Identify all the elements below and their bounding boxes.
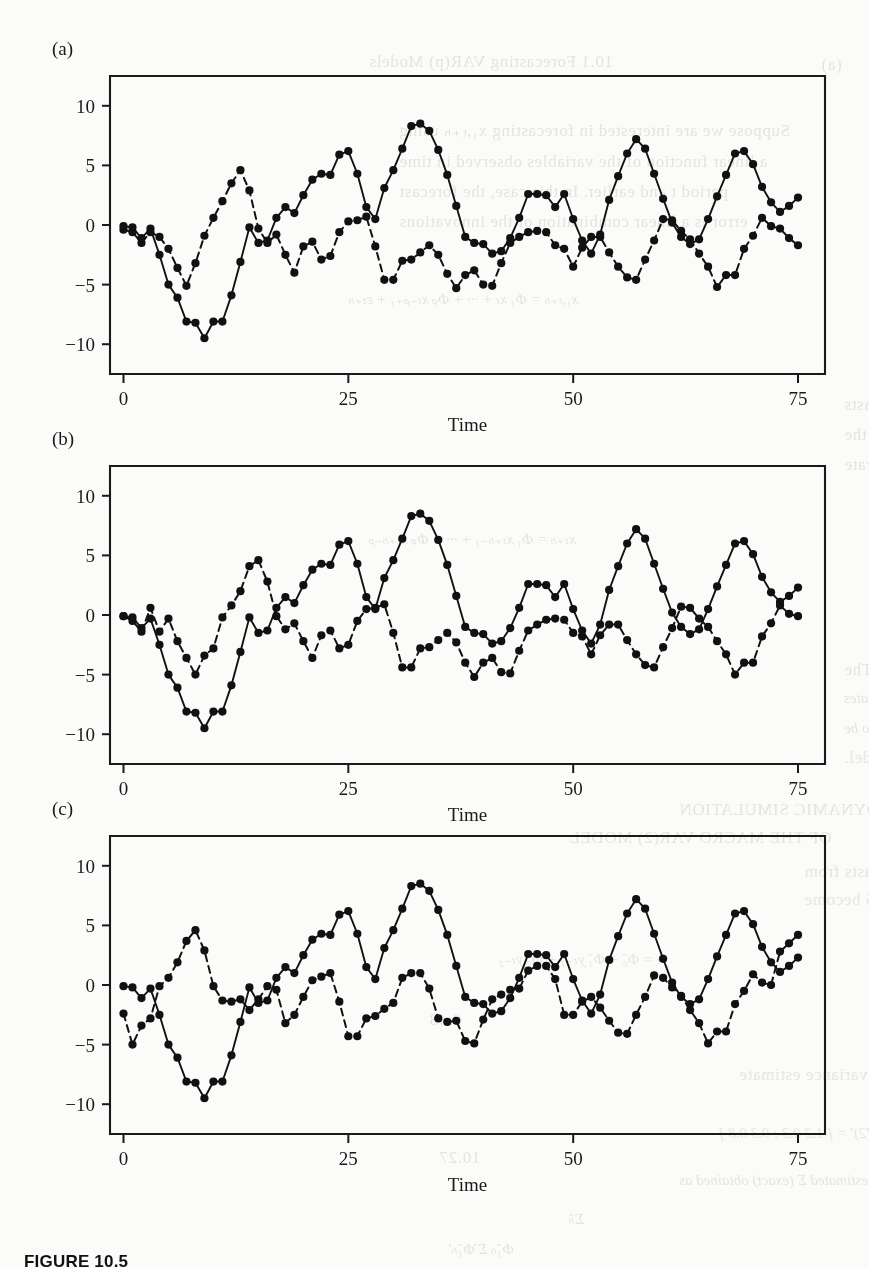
data-point bbox=[137, 1021, 145, 1029]
data-point bbox=[353, 930, 361, 938]
data-point bbox=[461, 1037, 469, 1045]
series-line-forecast-lag3 bbox=[123, 930, 798, 1044]
data-point bbox=[614, 1029, 622, 1037]
data-point bbox=[488, 1010, 496, 1018]
data-point bbox=[497, 990, 505, 998]
data-point bbox=[614, 932, 622, 940]
data-point bbox=[794, 953, 802, 961]
data-point bbox=[623, 909, 631, 917]
data-point bbox=[578, 996, 586, 1004]
data-point bbox=[434, 1014, 442, 1022]
data-point bbox=[731, 1000, 739, 1008]
data-point bbox=[749, 970, 757, 978]
data-point bbox=[317, 930, 325, 938]
data-point bbox=[416, 880, 424, 888]
data-point bbox=[398, 974, 406, 982]
data-point bbox=[650, 930, 658, 938]
data-point bbox=[722, 1027, 730, 1035]
data-point bbox=[128, 983, 136, 991]
data-point bbox=[641, 993, 649, 1001]
data-point bbox=[515, 974, 523, 982]
data-point bbox=[218, 996, 226, 1004]
data-point bbox=[596, 1004, 604, 1012]
data-point bbox=[641, 905, 649, 913]
data-point bbox=[704, 975, 712, 983]
data-point bbox=[164, 1041, 172, 1049]
data-point bbox=[497, 1007, 505, 1015]
data-point bbox=[722, 931, 730, 939]
data-point bbox=[533, 950, 541, 958]
data-point bbox=[182, 1077, 190, 1085]
data-point bbox=[524, 950, 532, 958]
data-point bbox=[254, 999, 262, 1007]
data-point bbox=[389, 926, 397, 934]
data-point bbox=[758, 943, 766, 951]
data-point bbox=[713, 952, 721, 960]
data-point bbox=[245, 1006, 253, 1014]
data-point bbox=[659, 955, 667, 963]
data-point bbox=[560, 1011, 568, 1019]
data-point bbox=[290, 969, 298, 977]
plot-canvas-panel-c: 1050−5−100255075 bbox=[0, 0, 869, 1268]
data-point bbox=[281, 1019, 289, 1027]
figure-caption: FIGURE 10.5 bbox=[24, 1252, 128, 1268]
data-point bbox=[200, 946, 208, 954]
data-point bbox=[137, 994, 145, 1002]
data-point bbox=[362, 963, 370, 971]
data-point bbox=[785, 939, 793, 947]
data-point bbox=[542, 962, 550, 970]
data-point bbox=[362, 1014, 370, 1022]
data-point bbox=[389, 999, 397, 1007]
data-point bbox=[155, 1011, 163, 1019]
data-point bbox=[605, 1017, 613, 1025]
data-point bbox=[443, 931, 451, 939]
data-point bbox=[479, 1000, 487, 1008]
data-point bbox=[785, 962, 793, 970]
data-point bbox=[245, 983, 253, 991]
data-point bbox=[308, 936, 316, 944]
data-point bbox=[758, 979, 766, 987]
data-point bbox=[263, 982, 271, 990]
data-point bbox=[371, 1012, 379, 1020]
data-point bbox=[605, 956, 613, 964]
data-point bbox=[776, 968, 784, 976]
data-point bbox=[740, 987, 748, 995]
data-point bbox=[227, 1051, 235, 1059]
data-point bbox=[344, 907, 352, 915]
data-point bbox=[551, 963, 559, 971]
data-point bbox=[650, 971, 658, 979]
data-point bbox=[434, 906, 442, 914]
y-tick-label: 0 bbox=[86, 975, 96, 996]
data-point bbox=[353, 1032, 361, 1040]
data-point bbox=[119, 1010, 127, 1018]
data-point bbox=[713, 1027, 721, 1035]
data-point bbox=[677, 993, 685, 1001]
data-point bbox=[461, 993, 469, 1001]
data-point bbox=[479, 1015, 487, 1023]
data-point bbox=[794, 931, 802, 939]
data-point bbox=[335, 998, 343, 1006]
data-point bbox=[191, 1079, 199, 1087]
data-point bbox=[344, 1032, 352, 1040]
data-point bbox=[452, 962, 460, 970]
x-axis-title: Time bbox=[0, 1174, 869, 1196]
data-point bbox=[542, 951, 550, 959]
data-point bbox=[551, 975, 559, 983]
data-point bbox=[470, 1039, 478, 1047]
data-point bbox=[632, 895, 640, 903]
data-point bbox=[326, 969, 334, 977]
data-point bbox=[263, 996, 271, 1004]
data-point bbox=[488, 995, 496, 1003]
data-point bbox=[452, 1017, 460, 1025]
data-point bbox=[596, 990, 604, 998]
data-point bbox=[182, 937, 190, 945]
data-point bbox=[569, 1011, 577, 1019]
data-point bbox=[632, 1011, 640, 1019]
data-point bbox=[587, 1010, 595, 1018]
x-tick-label: 50 bbox=[564, 1148, 583, 1169]
data-point bbox=[767, 958, 775, 966]
data-point bbox=[272, 974, 280, 982]
data-point bbox=[407, 882, 415, 890]
data-point bbox=[164, 974, 172, 982]
y-tick-label: 10 bbox=[76, 856, 95, 877]
